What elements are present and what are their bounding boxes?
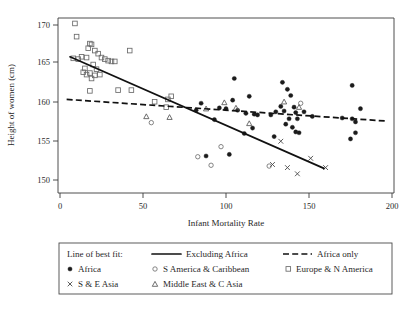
data-point: [93, 73, 98, 78]
data-point: [250, 126, 254, 130]
data-point: [285, 87, 289, 91]
fit-line-africa-only: [67, 99, 387, 121]
fit-lines-layer: [67, 57, 387, 169]
y-tick-label-160: 160: [37, 97, 50, 107]
data-point: [353, 131, 357, 135]
data-point: [84, 55, 89, 60]
data-point: [89, 76, 94, 81]
legend-open-triangle-icon: [152, 281, 157, 286]
data-point: [287, 117, 291, 121]
data-point: [282, 109, 286, 113]
data-point: [290, 125, 294, 129]
x-axis-title: Infant Mortality Rate: [188, 218, 264, 228]
y-axis-title: Height of women (cm): [6, 64, 16, 146]
data-points-layer: [71, 21, 363, 176]
legend-label-s-america-caribbean: S America & Caribbean: [163, 264, 250, 274]
data-point: [199, 101, 203, 105]
legend-label-excluding-africa: Excluding Africa: [186, 249, 248, 259]
y-tick-label-155: 155: [37, 136, 50, 146]
data-point: [219, 144, 223, 148]
data-point: [204, 154, 208, 158]
data-point: [358, 107, 362, 111]
legend-open-circle-icon: [153, 267, 157, 271]
y-tick-label-165: 165: [37, 57, 50, 67]
x-tick-label-200: 200: [386, 201, 399, 211]
legend-cross-icon: [68, 282, 73, 287]
data-point: [294, 110, 298, 114]
data-point: [196, 155, 200, 159]
y-tick-label-150: 150: [37, 175, 50, 185]
x-tick-label-100: 100: [220, 201, 233, 211]
legend-fit-heading: Line of best fit:: [67, 249, 123, 259]
data-point: [284, 122, 288, 126]
data-point: [278, 139, 283, 144]
legend: Line of best fit: Excluding Africa Afric…: [59, 243, 392, 294]
data-point: [231, 98, 235, 102]
legend-label-s-e-asia: S & E Asia: [78, 279, 118, 289]
data-point: [88, 71, 93, 76]
data-point: [209, 163, 213, 167]
data-point: [73, 21, 78, 26]
data-point: [295, 117, 299, 121]
data-point: [116, 88, 121, 93]
data-point: [127, 48, 132, 53]
y-tick-label-170: 170: [37, 20, 50, 30]
legend-label-africa-only: Africa only: [317, 249, 359, 259]
data-point: [348, 137, 352, 141]
data-point: [297, 131, 301, 135]
series-s-america-caribbean: [149, 101, 303, 168]
x-tick-label-0: 0: [58, 201, 62, 211]
data-point: [88, 89, 93, 94]
data-point: [232, 76, 236, 80]
legend-open-square-icon: [286, 267, 291, 272]
plot-canvas: 170 165 160 155 150 0 50 100 150 200 Inf…: [0, 0, 415, 311]
x-axis-ticks: 0 50 100 150 200: [58, 193, 399, 211]
data-point: [129, 88, 134, 93]
data-point: [353, 120, 357, 124]
data-point: [247, 94, 251, 98]
data-point: [289, 93, 293, 97]
data-point: [149, 120, 153, 124]
data-point: [112, 59, 117, 64]
data-point: [144, 114, 149, 119]
scatter-chart-figure: 170 165 160 155 150 0 50 100 150 200 Inf…: [0, 0, 415, 311]
data-point: [169, 94, 174, 99]
data-point: [103, 57, 108, 62]
data-point: [227, 152, 231, 156]
data-point: [152, 99, 157, 104]
legend-label-africa: Africa: [78, 264, 101, 274]
data-point: [247, 121, 252, 126]
y-axis-ticks: 170 165 160 155 150: [37, 20, 58, 185]
data-point: [292, 105, 296, 109]
data-point: [279, 104, 283, 108]
data-point: [282, 99, 287, 104]
fit-line-excluding-africa: [70, 57, 324, 169]
data-point: [74, 34, 79, 39]
data-point: [308, 156, 313, 161]
x-tick-label-50: 50: [139, 201, 148, 211]
data-point: [93, 48, 98, 53]
legend-label-europe-n-america: Europe & N America: [296, 264, 373, 274]
data-point: [272, 135, 276, 139]
plot-frame: [58, 18, 394, 193]
data-point: [295, 171, 300, 176]
data-point: [350, 83, 354, 87]
data-point: [280, 80, 284, 84]
data-point: [302, 110, 306, 114]
data-point: [98, 72, 103, 77]
data-point: [285, 165, 290, 170]
data-point: [222, 100, 227, 105]
legend-label-middle-east-c-asia: Middle East & C Asia: [163, 279, 243, 289]
x-tick-label-150: 150: [303, 201, 316, 211]
data-point: [167, 115, 172, 120]
legend-filled-circle-icon: [68, 267, 72, 271]
